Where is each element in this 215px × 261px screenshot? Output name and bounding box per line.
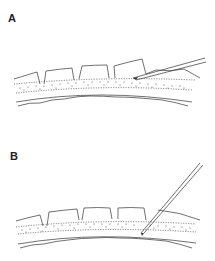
panel-b: B xyxy=(0,130,215,261)
stipple-dots-b xyxy=(21,223,190,232)
panel-a: A xyxy=(0,0,215,130)
tissue-diagram-b xyxy=(0,130,215,261)
tissue-diagram-a xyxy=(0,0,215,130)
